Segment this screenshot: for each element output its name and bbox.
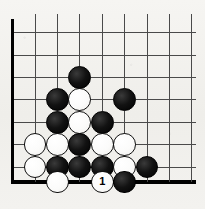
- white-stone[interactable]: [24, 133, 47, 156]
- white-stone[interactable]: [46, 171, 69, 194]
- move-number-label: 1: [92, 172, 113, 193]
- white-stone[interactable]: [113, 133, 136, 156]
- black-stone[interactable]: [46, 111, 69, 134]
- go-board-diagram: 1: [0, 0, 205, 209]
- black-stone[interactable]: [46, 88, 69, 111]
- white-stone[interactable]: [91, 133, 114, 156]
- black-stone[interactable]: [91, 111, 114, 134]
- black-stone[interactable]: [68, 66, 91, 89]
- white-stone[interactable]: [68, 111, 91, 134]
- white-stone-move-1[interactable]: 1: [91, 171, 114, 194]
- white-stone[interactable]: [46, 133, 69, 156]
- black-stone[interactable]: [113, 171, 136, 194]
